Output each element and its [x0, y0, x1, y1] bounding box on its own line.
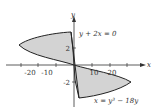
y-tick-label: 2 [66, 45, 70, 53]
x-tick-label: 10 [90, 69, 99, 77]
x-tick-label: 20 [108, 69, 117, 77]
region-diagram: x y -20 -10 10 20 2 -2 y + 2x = 0 x = y³… [0, 0, 153, 110]
y-tick-label: -2 [63, 79, 70, 87]
y-axis-label: y [70, 11, 76, 19]
x-tick-label: -10 [41, 69, 52, 77]
x-axis-label: x [147, 61, 151, 69]
cubic-equation-label: x = y³ − 18y [94, 97, 139, 105]
lower-shaded-region [74, 65, 131, 98]
x-axis-arrow-icon [140, 63, 146, 67]
line-equation-label: y + 2x = 0 [78, 30, 117, 38]
x-tick-label: -20 [24, 69, 35, 77]
